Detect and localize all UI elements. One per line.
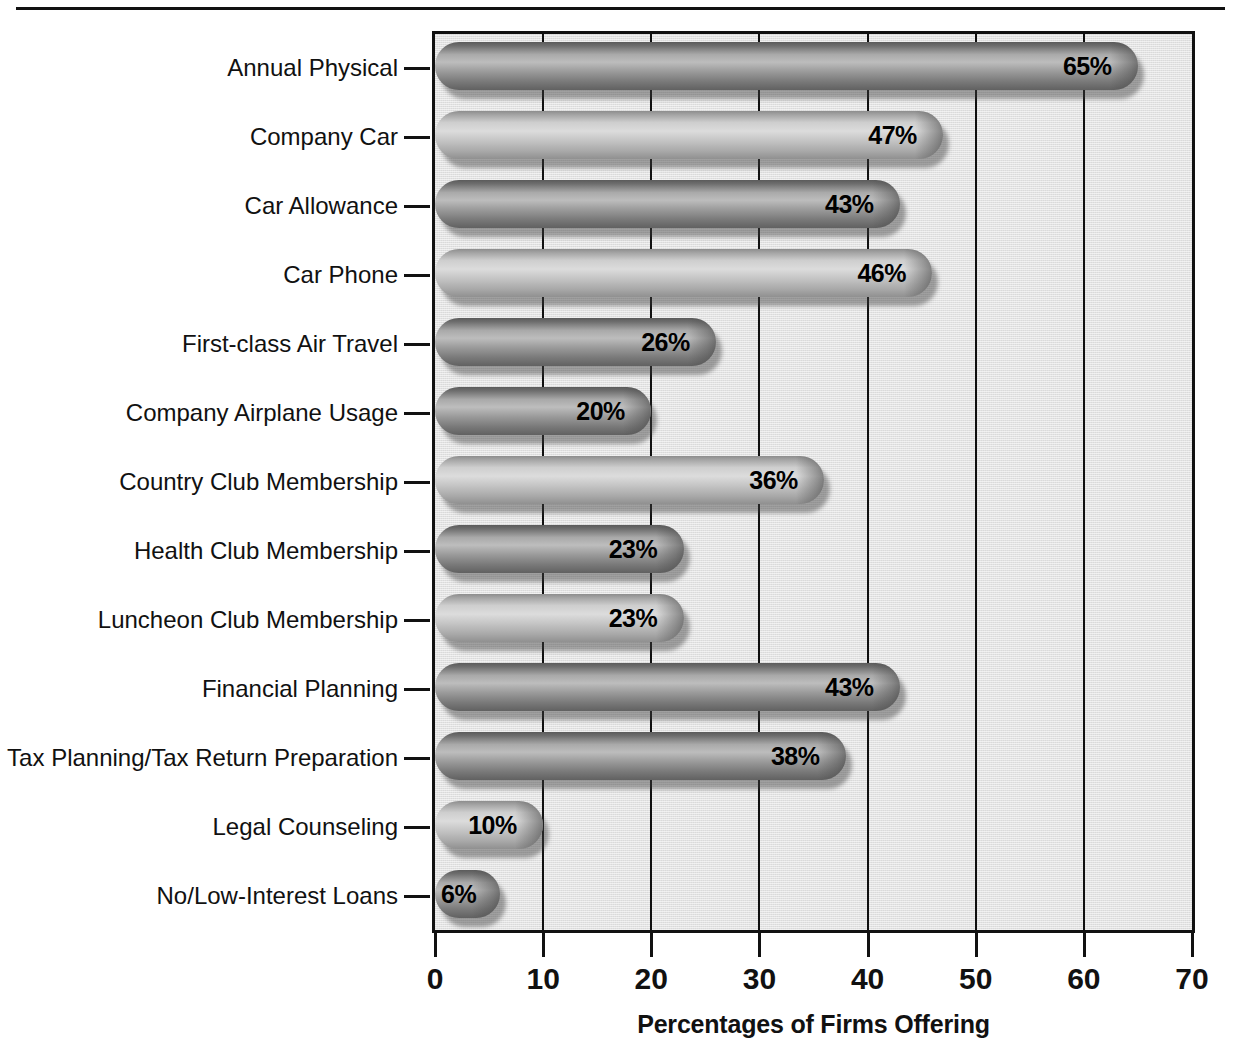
y-axis-category-labels: Annual PhysicalCompany CarCar AllowanceC… [0,0,398,1061]
chart-figure: Annual PhysicalCompany CarCar AllowanceC… [0,0,1235,1061]
y-axis-category-label: Country Club Membership [119,467,398,497]
x-axis-tick-label: 0 [427,962,444,996]
x-axis-tick [434,933,437,957]
bar-value-label: 46% [857,249,906,297]
bar-row: 43% [435,180,910,236]
x-axis-tick-label: 20 [635,962,668,996]
bar-value-label: 43% [825,180,874,228]
plot-area: 65%47%43%46%26%20%36%23%23%43%38%10%6% [432,31,1195,933]
bar-value-label: 47% [868,111,917,159]
bar-value-label: 36% [749,456,798,504]
bar-value-label: 20% [576,387,625,435]
y-axis-tick [404,895,430,898]
x-axis-tick-label: 10 [526,962,559,996]
bar[interactable] [435,42,1138,90]
bar-row: 23% [435,594,694,650]
x-axis-tick [650,933,653,957]
bar-row: 47% [435,111,953,167]
bar-row: 65% [435,42,1148,98]
x-axis-tick-label: 30 [743,962,776,996]
y-axis-category-label: Health Club Membership [134,536,398,566]
y-axis-category-label: Luncheon Club Membership [98,605,398,635]
y-axis-tick [404,136,430,139]
bar-value-label: 10% [468,801,517,849]
y-axis-tick [404,205,430,208]
y-axis-tick [404,481,430,484]
y-axis-tick [404,619,430,622]
y-axis-category-label: First-class Air Travel [182,329,398,359]
bars-layer: 65%47%43%46%26%20%36%23%23%43%38%10%6% [435,34,1192,930]
bar-row: 26% [435,318,726,374]
x-axis-tick [542,933,545,957]
y-axis-tick [404,757,430,760]
y-axis-category-label: Financial Planning [202,674,398,704]
bar-row: 38% [435,732,856,788]
bar-value-label: 65% [1063,42,1112,90]
y-axis-category-label: Annual Physical [227,53,398,83]
x-axis-tick-label: 40 [851,962,884,996]
x-axis-tick-label: 70 [1175,962,1208,996]
bar-value-label: 23% [609,594,658,642]
bar-value-label: 23% [609,525,658,573]
bar-value-label: 26% [641,318,690,366]
y-axis-category-label: Tax Planning/Tax Return Preparation [7,743,398,773]
bar-row: 43% [435,663,910,719]
y-axis-tick [404,67,430,70]
x-axis-tick-label: 50 [959,962,992,996]
bar[interactable] [435,111,943,159]
bar-value-label: 43% [825,663,874,711]
y-axis-tick [404,550,430,553]
y-axis-tick [404,274,430,277]
bar-row: 46% [435,249,942,305]
bar-row: 23% [435,525,694,581]
y-axis-category-label: Car Phone [283,260,398,290]
x-axis-tick [975,933,978,957]
bar-value-label: 38% [771,732,820,780]
y-axis-tick [404,343,430,346]
bar-value-label: 6% [441,870,476,918]
bar-row: 36% [435,456,834,512]
y-axis-category-label: Company Airplane Usage [126,398,398,428]
bar-row: 20% [435,387,661,443]
y-axis-category-label: Legal Counseling [213,812,398,842]
x-axis-tick-label: 60 [1067,962,1100,996]
x-axis-tick [1191,933,1194,957]
y-axis-tick [404,688,430,691]
x-axis-tick [867,933,870,957]
y-axis-tick [404,826,430,829]
y-axis-category-label: Company Car [250,122,398,152]
y-axis-tick [404,412,430,415]
bar-row: 10% [435,801,553,857]
y-axis-category-label: Car Allowance [245,191,398,221]
bar-row: 6% [435,870,510,926]
x-axis-tick [758,933,761,957]
x-axis-tick [1083,933,1086,957]
y-axis-category-label: No/Low-Interest Loans [157,881,398,911]
x-axis-title: Percentages of Firms Offering [432,1010,1195,1039]
